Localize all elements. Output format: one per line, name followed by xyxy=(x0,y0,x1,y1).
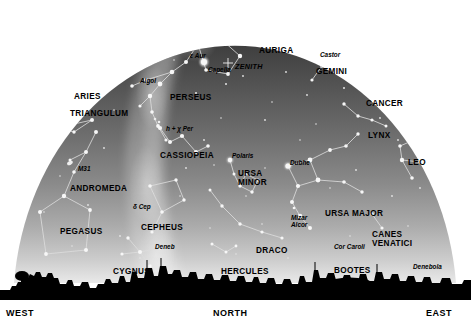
star-chart xyxy=(0,0,471,321)
